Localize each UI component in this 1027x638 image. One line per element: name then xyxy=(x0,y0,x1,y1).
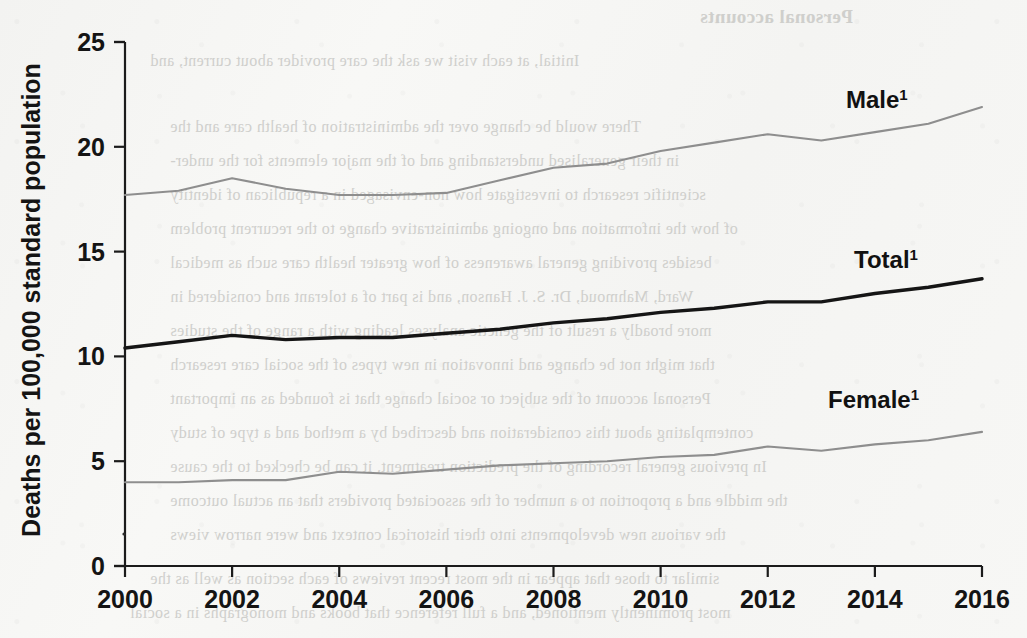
y-axis-tick-labels: 0510152025 xyxy=(77,28,105,580)
series-label-footnote: 1 xyxy=(910,246,918,263)
x-tick-label: 2006 xyxy=(419,585,475,613)
series-label-total: Total1 xyxy=(854,246,918,273)
series-label-female: Female1 xyxy=(828,386,919,413)
y-tick-label: 5 xyxy=(91,447,105,475)
x-tick-label: 2004 xyxy=(311,585,367,613)
series-line-female xyxy=(125,432,982,482)
series-label-footnote: 1 xyxy=(911,386,919,403)
data-series-group xyxy=(125,107,982,482)
series-label-male: Male1 xyxy=(846,86,908,113)
x-tick-label: 2008 xyxy=(526,585,582,613)
x-axis: 200020022004200620082010201220142016 xyxy=(97,566,1010,613)
series-line-male xyxy=(125,107,982,195)
x-tick-label: 2012 xyxy=(740,585,796,613)
y-axis-title: Deaths per 100,000 standard population xyxy=(17,63,45,537)
x-tick-label: 2002 xyxy=(204,585,260,613)
x-tick-label: 2000 xyxy=(97,585,153,613)
suicide-death-rate-line-chart: 0510152025 20002002200420062008201020122… xyxy=(0,0,1027,638)
series-label-footnote: 1 xyxy=(899,86,907,103)
y-tick-label: 20 xyxy=(77,133,105,161)
x-tick-label: 2014 xyxy=(847,585,903,613)
scan-speck xyxy=(122,532,125,535)
chart-svg: 0510152025 20002002200420062008201020122… xyxy=(0,0,1027,638)
x-axis-tick-labels: 200020022004200620082010201220142016 xyxy=(97,585,1010,613)
y-tick-label: 0 xyxy=(91,552,105,580)
y-axis-ticks xyxy=(114,42,125,566)
x-tick-label: 2010 xyxy=(633,585,689,613)
y-tick-label: 25 xyxy=(77,28,105,56)
x-axis-ticks xyxy=(125,566,982,577)
y-tick-label: 10 xyxy=(77,342,105,370)
y-tick-label: 15 xyxy=(77,238,105,266)
x-tick-label: 2016 xyxy=(954,585,1010,613)
series-line-total xyxy=(125,279,982,348)
y-axis: 0510152025 xyxy=(77,28,125,580)
series-labels: Male1 Total1 Female1 xyxy=(828,86,919,413)
